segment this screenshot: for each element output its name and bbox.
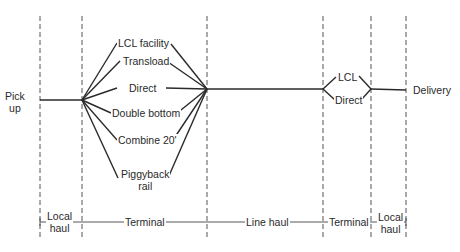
stage-terminal-destination: Terminal bbox=[328, 216, 370, 228]
destination-label: Delivery bbox=[412, 84, 452, 96]
stage-line-haul: Line haul bbox=[245, 216, 290, 228]
stage-terminal-origin: Terminal bbox=[124, 216, 166, 228]
option-lcl-facility: LCL facility bbox=[117, 37, 170, 49]
stage-local-haul-origin: Local haul bbox=[46, 210, 73, 234]
option-double-bottom: Double bottom bbox=[111, 107, 181, 119]
option-direct: Direct bbox=[128, 82, 157, 94]
option-dest-direct: Direct bbox=[334, 94, 363, 106]
origin-label: Pick up bbox=[4, 90, 26, 114]
stage-local-haul-destination: Local haul bbox=[377, 211, 404, 235]
option-transload: Transload bbox=[122, 55, 170, 67]
option-piggyback-rail: Piggyback rail bbox=[120, 168, 170, 192]
option-dest-lcl: LCL bbox=[337, 71, 358, 83]
option-combine-20: Combine 20' bbox=[117, 134, 178, 146]
delivery-connector bbox=[371, 89, 406, 90]
